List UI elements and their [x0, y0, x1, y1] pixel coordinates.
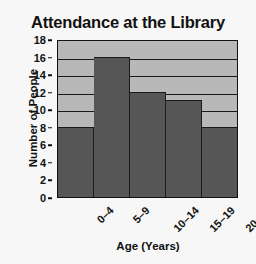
- bar-series: [58, 41, 237, 197]
- chart-title: Attendance at the Library: [0, 13, 256, 32]
- y-axis-tick-label: 12: [34, 87, 46, 98]
- x-axis-tick-labels: 0–45–910–1415–1920–24: [57, 198, 238, 240]
- y-axis-tick-mark: [48, 145, 52, 147]
- x-axis-tick-label: 10–14: [170, 204, 200, 234]
- x-axis-tick-label: 20–24: [243, 204, 256, 234]
- bar: [130, 92, 166, 197]
- x-axis-tick-label: 5–9: [131, 204, 152, 225]
- bar: [94, 57, 130, 197]
- y-axis-tick-label: 6: [40, 140, 46, 151]
- bar: [202, 127, 237, 197]
- y-axis-tick-mark: [48, 127, 52, 129]
- y-axis-tick-mark: [48, 180, 52, 182]
- y-axis-tick-mark: [48, 92, 52, 94]
- y-axis-tick-mark: [48, 74, 52, 76]
- y-axis-tick-mark: [48, 197, 52, 199]
- y-axis-tick-label: 2: [40, 175, 46, 186]
- y-axis-tick-label: 16: [34, 52, 46, 63]
- y-axis-tick-label: 4: [40, 157, 46, 168]
- x-axis-label: Age (Years): [57, 240, 239, 252]
- chart-figure: Attendance at the Library Number of Peop…: [0, 0, 256, 264]
- y-axis-tick-mark: [48, 162, 52, 164]
- x-axis-tick-label: 0–4: [94, 204, 115, 225]
- y-axis-tick-label: 8: [40, 122, 46, 133]
- y-axis-tick-mark: [48, 109, 52, 111]
- plot-area: [57, 40, 238, 198]
- y-axis-tick-label: 14: [34, 70, 46, 81]
- y-axis-tick-label: 18: [34, 35, 46, 46]
- y-axis-tick-mark: [48, 39, 52, 41]
- y-axis-tick-label: 0: [40, 193, 46, 204]
- bar: [166, 100, 202, 197]
- x-axis-tick-label: 15–19: [207, 204, 237, 234]
- y-axis-tick-mark: [48, 57, 52, 59]
- y-axis-tick-label: 10: [34, 105, 46, 116]
- bar: [58, 127, 94, 197]
- y-axis-tick-labels: 024681012141618: [0, 40, 52, 198]
